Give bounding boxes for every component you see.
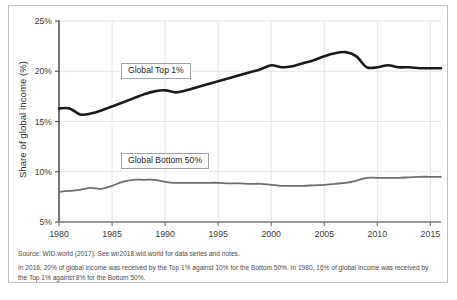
x-tick-label: 2005 xyxy=(314,229,334,239)
series-line xyxy=(59,177,441,192)
y-tick-label: 15% xyxy=(35,117,53,127)
y-tick-label: 5% xyxy=(40,217,53,227)
plot-area: Share of global income (%) 5%10%15%20%25… xyxy=(9,6,447,246)
legend-label-bottom-50pct[interactable]: Global Bottom 50% xyxy=(121,153,209,169)
figure-container: Share of global income (%) 5%10%15%20%25… xyxy=(8,5,448,283)
y-tick-label: 25% xyxy=(35,16,53,26)
y-tick-label: 10% xyxy=(35,167,53,177)
x-tick-label: 2000 xyxy=(261,229,281,239)
line-chart: 5%10%15%20%25%19801985199019952000200520… xyxy=(9,6,447,246)
x-tick-label: 1985 xyxy=(102,229,122,239)
y-tick-label: 20% xyxy=(35,66,53,76)
x-tick-label: 1990 xyxy=(155,229,175,239)
x-tick-label: 2010 xyxy=(368,229,388,239)
legend-label-top-1pct[interactable]: Global Top 1% xyxy=(121,63,191,79)
series-line xyxy=(59,52,441,115)
source-note: Source: WID.world (2017). See wir2018.wi… xyxy=(18,249,438,259)
x-tick-label: 1995 xyxy=(208,229,228,239)
y-axis-title: Share of global income (%) xyxy=(17,30,28,210)
explanation-note: In 2016, 20% of global income was receiv… xyxy=(18,263,438,283)
figure-notes: Source: WID.world (2017). See wir2018.wi… xyxy=(18,249,438,284)
x-tick-label: 2015 xyxy=(421,229,441,239)
x-tick-label: 1980 xyxy=(49,229,69,239)
